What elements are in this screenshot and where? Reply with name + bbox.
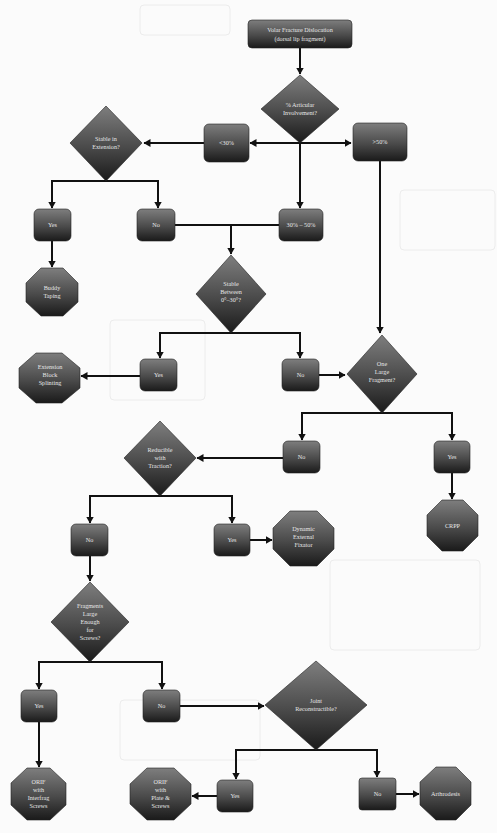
stable-ext-yes-node: Yes — [34, 209, 71, 241]
joint-line2: Reconstructible? — [295, 705, 337, 712]
stable-ext-yes-label: Yes — [48, 221, 58, 228]
op-line4: Screws — [152, 802, 170, 809]
oi-line3: Interfrag — [28, 794, 50, 801]
ebs-line1: Extension — [38, 363, 63, 370]
red-yes-label: Yes — [227, 536, 237, 543]
fl-yes-node: Yes — [21, 690, 57, 722]
joint-line1: Joint — [310, 697, 322, 704]
red-no-node: No — [71, 524, 108, 556]
ol-yes-label: Yes — [447, 453, 457, 460]
stable-ext-line1: Stable in — [95, 135, 117, 142]
dyn-line1: Dynamic — [292, 525, 315, 532]
oi-line1: ORIF — [31, 778, 46, 785]
articular-line2: Involvement? — [283, 109, 317, 116]
articular-decision: % Articular Involvement? — [261, 75, 339, 143]
start-node: Volar Fracture Dislocation (dorsal lip f… — [248, 20, 352, 48]
crpp-label: CRPP — [445, 522, 461, 529]
orif-plate-node: ORIF with Plate & Screws — [130, 768, 191, 820]
flowchart: Volar Fracture Dislocation (dorsal lip f… — [0, 0, 497, 833]
orif-interfrag-node: ORIF with Interfrag Screws — [11, 768, 66, 820]
op-line3: Plate & — [151, 794, 170, 801]
oi-line2: with — [33, 786, 45, 793]
fl-line1: Fragments — [77, 602, 104, 609]
jr-yes-node: Yes — [217, 780, 253, 812]
arthrodesis-label: Arthrodesis — [431, 790, 460, 797]
fl-line4: for — [86, 626, 93, 633]
sb-line2: Between — [220, 288, 242, 295]
ol-no-node: No — [283, 441, 320, 473]
dyn-line2: External — [293, 533, 314, 540]
op-line1: ORIF — [153, 778, 168, 785]
jr-no-node: No — [359, 778, 396, 810]
stable-between-decision: Stable Between 0°–30°? — [196, 255, 266, 333]
start-line1: Volar Fracture Dislocation — [267, 26, 333, 33]
ebs-line3: Splinting — [39, 379, 62, 386]
sb-line1: Stable — [223, 280, 239, 287]
red-no-label: No — [86, 536, 94, 543]
gt50-node: >50% — [353, 123, 407, 161]
buddy-taping-node: Buddy Taping — [26, 268, 78, 316]
joint-reconstructible-decision: Joint Reconstructible? — [265, 661, 367, 750]
fragments-large-decision: Fragments Large Enough for Screws? — [51, 582, 129, 662]
sb-no-node: No — [282, 359, 319, 391]
mid-node: 30% – 50% — [279, 209, 323, 241]
ol-yes-node: Yes — [434, 441, 470, 473]
fl-no-node: No — [143, 690, 180, 722]
sb-line3: 0°–30°? — [221, 296, 241, 303]
start-line2: (dorsal lip fragment) — [274, 35, 325, 43]
ol-no-label: No — [298, 453, 306, 460]
red-line3: Traction? — [148, 462, 172, 469]
ebs-line2: Block — [43, 371, 59, 378]
sb-yes-label: Yes — [154, 371, 164, 378]
fl-line3: Enough — [80, 618, 100, 625]
lt30-label: <30% — [219, 139, 234, 146]
buddy-line1: Buddy — [44, 284, 61, 291]
oi-line4: Screws — [30, 802, 48, 809]
jr-yes-label: Yes — [230, 792, 240, 799]
sb-yes-node: Yes — [140, 359, 177, 391]
jr-no-label: No — [374, 790, 382, 797]
gt50-label: >50% — [373, 138, 388, 145]
arthrodesis-node: Arthrodesis — [420, 767, 471, 820]
crpp-node: CRPP — [427, 500, 478, 551]
reducible-decision: Reducible with Traction? — [124, 421, 196, 496]
ol-line2: Large — [375, 368, 390, 375]
fl-no-label: No — [158, 702, 166, 709]
fl-line2: Large — [83, 610, 98, 617]
lt30-node: <30% — [204, 124, 249, 162]
ol-line3: Fragment? — [369, 376, 396, 383]
fl-yes-label: Yes — [34, 702, 44, 709]
op-line2: with — [155, 786, 167, 793]
stable-ext-no-node: No — [137, 209, 175, 241]
buddy-line2: Taping — [43, 292, 60, 299]
sb-no-label: No — [297, 371, 305, 378]
dyn-line3: Fixator — [295, 541, 313, 548]
stable-ext-no-label: No — [152, 221, 160, 228]
stable-ext-line2: Extension? — [92, 143, 120, 150]
one-large-fragment-decision: One Large Fragment? — [347, 335, 417, 413]
red-line2: with — [154, 454, 166, 461]
red-line1: Reducible — [147, 446, 172, 453]
ol-line1: One — [377, 360, 388, 367]
fl-line5: Screws? — [80, 634, 101, 641]
red-yes-node: Yes — [214, 524, 250, 556]
extension-block-splinting-node: Extension Block Splinting — [19, 353, 80, 403]
mid-label: 30% – 50% — [287, 221, 316, 228]
dynamic-external-fixator-node: Dynamic External Fixator — [273, 511, 334, 566]
articular-line1: % Articular — [286, 101, 315, 108]
stable-extension-decision: Stable in Extension? — [70, 106, 142, 181]
